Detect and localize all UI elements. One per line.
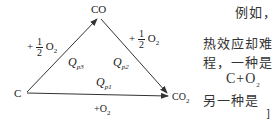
- qp1-sub: p1: [105, 83, 112, 91]
- text-line-2: 热效应却难: [203, 33, 273, 52]
- heat-qp1: Qp1: [96, 75, 112, 91]
- text-line-3: 程，一种是: [203, 52, 273, 71]
- bottom-reagent-base: +O: [94, 103, 107, 114]
- right-edge-reagent: + 12 O2: [129, 29, 159, 50]
- left-sign: +: [27, 40, 33, 52]
- left-fraction: 12: [36, 37, 43, 58]
- right-fraction: 12: [138, 29, 145, 50]
- text-line-4-base: C+O: [226, 71, 256, 86]
- text-line-4: C+O2: [226, 71, 261, 89]
- text-line-6: ]: [266, 108, 271, 119]
- node-co2: CO2: [172, 91, 189, 105]
- left-edge-reagent: + 12 O2: [27, 37, 57, 58]
- qp3-sub: p3: [77, 63, 84, 71]
- right-frac-den: 2: [138, 40, 145, 50]
- node-co2-base: CO: [172, 91, 186, 102]
- right-species-sub: 2: [156, 39, 160, 47]
- node-co: CO: [91, 3, 106, 15]
- left-species: O: [46, 40, 54, 52]
- node-c: C: [14, 87, 21, 99]
- heat-qp2: Qp2: [113, 55, 129, 71]
- text-line-4-sub: 2: [256, 81, 261, 89]
- text-line-5: 另一种是: [203, 90, 259, 109]
- bottom-reagent-sub: 2: [107, 109, 111, 117]
- left-species-sub: 2: [54, 47, 58, 55]
- qp2-base: Q: [113, 55, 122, 69]
- qp2-sub: p2: [122, 63, 129, 71]
- heat-qp3: Qp3: [68, 55, 84, 71]
- right-species: O: [148, 32, 156, 44]
- qp3-base: Q: [68, 55, 77, 69]
- arrow-c-to-co2: [27, 93, 168, 96]
- node-co2-sub: 2: [186, 97, 190, 105]
- text-line-1: 例如，(: [235, 2, 276, 21]
- bottom-edge-reagent: +O2: [94, 103, 110, 117]
- right-sign: +: [129, 32, 135, 44]
- left-frac-den: 2: [36, 48, 43, 58]
- qp1-base: Q: [96, 75, 105, 89]
